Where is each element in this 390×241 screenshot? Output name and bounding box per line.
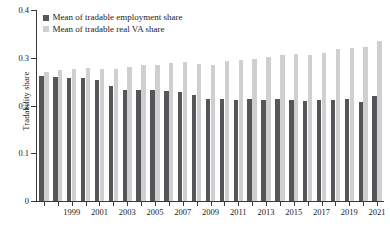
x-axis-tick (58, 202, 59, 206)
bar-va (225, 61, 229, 201)
bar-va (239, 60, 243, 201)
legend-swatch-va (43, 26, 49, 32)
x-axis-tick (349, 202, 350, 206)
bar-group (217, 10, 231, 201)
bar-va (377, 41, 381, 201)
bar-va (155, 65, 159, 201)
x-axis-tick (127, 202, 128, 206)
bar-group (79, 10, 93, 201)
bar-employment (123, 90, 127, 201)
legend-label-va: Mean of tradable real VA share (53, 24, 165, 36)
bar-group (231, 10, 245, 201)
bar-group (148, 10, 162, 201)
bar-employment (164, 91, 168, 201)
bar-group (162, 10, 176, 201)
x-axis-tick (238, 202, 239, 206)
x-axis-tick (294, 202, 295, 206)
bar-employment (317, 100, 321, 201)
bar-va (58, 70, 62, 201)
y-axis-tick-label: 0.3 (0, 54, 29, 63)
y-axis-tick (31, 201, 37, 202)
x-axis-tick (155, 202, 156, 206)
bar-employment (192, 95, 196, 201)
x-axis-tick (308, 202, 309, 206)
bar-group (370, 10, 384, 201)
bar-group (328, 10, 342, 201)
bar-group (204, 10, 218, 201)
x-axis-tick (211, 202, 212, 206)
bar-va (127, 67, 131, 201)
bar-employment (261, 100, 265, 201)
bar-group (176, 10, 190, 201)
bar-va (294, 54, 298, 201)
legend-item-employment: Mean of tradable employment share (43, 12, 182, 24)
x-axis-tick (169, 202, 170, 206)
bar-employment (372, 96, 376, 201)
bar-group (65, 10, 79, 201)
bar-employment (81, 78, 85, 201)
bar-group (93, 10, 107, 201)
legend-label-employment: Mean of tradable employment share (53, 12, 183, 24)
bar-employment (109, 86, 113, 201)
bar-employment (234, 100, 238, 201)
x-axis-tick (363, 202, 364, 206)
bar-va (72, 69, 76, 201)
bar-employment (303, 101, 307, 201)
bar-group (134, 10, 148, 201)
bar-group (106, 10, 120, 201)
x-axis-tick (183, 202, 184, 206)
x-axis-tick (266, 202, 267, 206)
bar-group (37, 10, 51, 201)
bar-va (252, 59, 256, 201)
bar-employment (53, 77, 57, 201)
bar-va (141, 65, 145, 201)
bar-employment (220, 99, 224, 201)
bar-group (287, 10, 301, 201)
bar-group (190, 10, 204, 201)
bar-employment (206, 99, 210, 201)
y-axis-tick-label: 0 (0, 197, 29, 206)
bar-group (301, 10, 315, 201)
bar-group (315, 10, 329, 201)
legend-swatch-employment (43, 15, 49, 21)
bar-va (169, 63, 173, 201)
bar-employment (331, 100, 335, 201)
bar-va (183, 62, 187, 201)
x-axis-tick (252, 202, 253, 206)
x-axis-tick (322, 202, 323, 206)
chart-container: Tradability share 00.10.20.30.4 19992001… (0, 0, 390, 241)
x-axis-tick (44, 202, 45, 206)
bar-va (86, 68, 90, 201)
x-axis-tick (86, 202, 87, 206)
bar-employment (275, 99, 279, 201)
bar-va (363, 47, 367, 201)
bar-va (350, 48, 354, 201)
bar-group (342, 10, 356, 201)
y-axis-tick-label: 0.4 (0, 6, 29, 15)
bar-group (120, 10, 134, 201)
bar-employment (289, 100, 293, 201)
bar-employment (95, 80, 99, 201)
bar-va (211, 65, 215, 201)
x-axis-tick (72, 202, 73, 206)
bar-group (245, 10, 259, 201)
bar-employment (359, 102, 363, 201)
x-axis-tick (141, 202, 142, 206)
y-axis-tick-label: 0.1 (0, 149, 29, 158)
bar-va (308, 55, 312, 201)
x-axis-tick (99, 202, 100, 206)
x-axis-tick (280, 202, 281, 206)
bar-employment (150, 90, 154, 201)
bar-group (259, 10, 273, 201)
x-axis-tick (335, 202, 336, 206)
chart-legend: Mean of tradable employment share Mean o… (43, 12, 182, 35)
bar-va (322, 53, 326, 202)
bar-va (336, 49, 340, 201)
bar-va (44, 72, 48, 201)
bar-employment (345, 99, 349, 201)
bar-employment (178, 92, 182, 201)
x-axis-tick (224, 202, 225, 206)
bar-va (114, 69, 118, 201)
x-axis-tick (113, 202, 114, 206)
x-axis-tick-label: 2021 (357, 208, 390, 217)
